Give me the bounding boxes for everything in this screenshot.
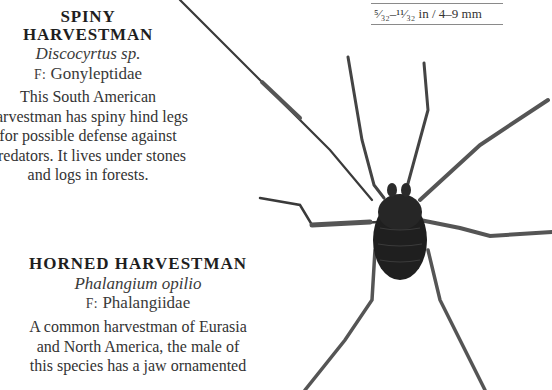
latin-name: Discocyrtus sp. [0, 44, 198, 64]
entry-title: HORNED HARVESTMAN [0, 254, 278, 274]
size-label: ⁵⁄₃₂–¹¹⁄₃₂ in / 4–9 mm [371, 3, 503, 25]
description-line: for possible defense against [0, 126, 198, 146]
family-prefix: F: [86, 296, 98, 311]
description-line: and logs in forests. [0, 165, 198, 185]
entry-horned-harvestman: HORNED HARVESTMAN Phalangium opilio F: P… [0, 254, 278, 376]
description-line: This South American [0, 87, 198, 107]
family-prefix: F: [34, 67, 46, 82]
title-line: SPINY [0, 8, 198, 26]
family-value: Gonyleptidae [51, 64, 143, 83]
family-value: Phalangiidae [102, 293, 190, 312]
description: A common harvestman of Eurasia and North… [0, 317, 278, 376]
description-line: harvestman has spiny hind legs [0, 107, 198, 127]
entry-spiny-harvestman: SPINY HARVESTMAN Discocyrtus sp. F: Gony… [0, 8, 198, 185]
description-line: this species has a jaw ornamented [0, 356, 278, 376]
title-line: HARVESTMAN [0, 26, 198, 44]
description: This South American harvestman has spiny… [0, 87, 198, 185]
family-name: F: Gonyleptidae [0, 64, 198, 85]
entry-title: SPINY HARVESTMAN [0, 8, 198, 44]
latin-name: Phalangium opilio [0, 274, 278, 293]
family-name: F: Phalangiidae [0, 293, 278, 313]
description-line: A common harvestman of Eurasia [0, 317, 278, 337]
description-line: and North America, the male of [0, 337, 278, 357]
description-line: predators. It lives under stones [0, 146, 198, 166]
